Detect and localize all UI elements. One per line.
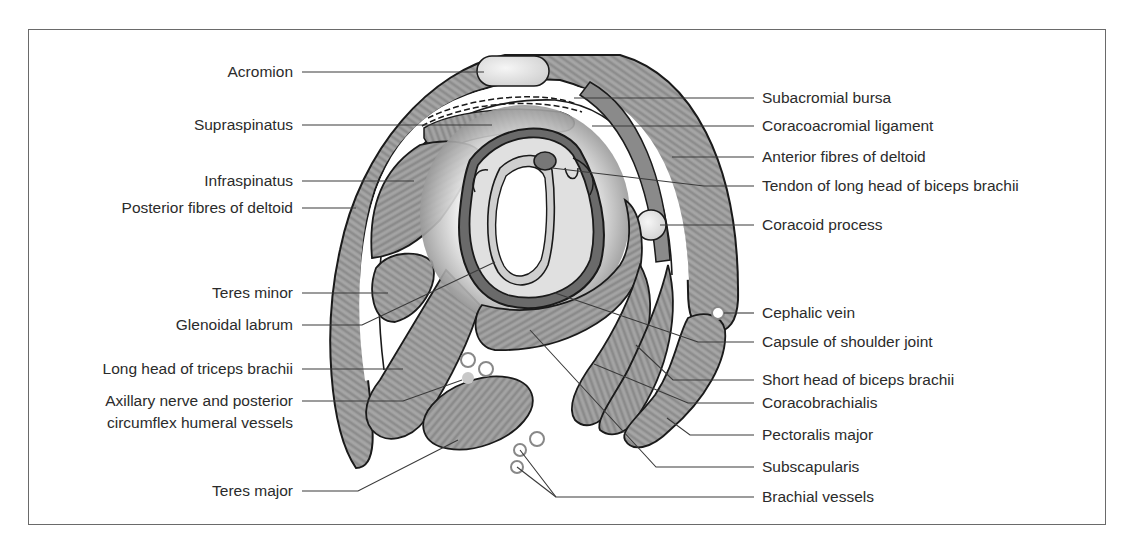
label-glenoidal-labrum: Glenoidal labrum <box>176 316 293 334</box>
label-supraspinatus: Supraspinatus <box>194 116 293 134</box>
biceps-tendon <box>534 152 556 170</box>
label-brachial-vessels: Brachial vessels <box>762 488 874 506</box>
label-coracobrachialis: Coracobrachialis <box>762 394 877 412</box>
label-subscapularis: Subscapularis <box>762 458 859 476</box>
label-anterior-deltoid: Anterior fibres of deltoid <box>762 148 926 166</box>
brachial-vessels-circles <box>511 432 544 473</box>
label-posterior-deltoid: Posterior fibres of deltoid <box>122 199 293 217</box>
label-coracoid-process: Coracoid process <box>762 216 883 234</box>
label-acromion: Acromion <box>228 63 293 81</box>
label-infraspinatus: Infraspinatus <box>204 172 293 190</box>
label-short-head-biceps: Short head of biceps brachii <box>762 371 954 389</box>
label-long-head-triceps: Long head of triceps brachii <box>103 360 293 378</box>
glenoidal-labrum-structure <box>488 155 555 284</box>
label-cephalic-vein: Cephalic vein <box>762 304 855 322</box>
label-capsule: Capsule of shoulder joint <box>762 333 933 351</box>
label-teres-major: Teres major <box>212 482 293 500</box>
label-teres-minor: Teres minor <box>212 284 293 302</box>
label-tendon-biceps: Tendon of long head of biceps brachii <box>762 177 1019 195</box>
label-pectoralis-major: Pectoralis major <box>762 426 873 444</box>
label-subacromial-bursa: Subacromial bursa <box>762 89 891 107</box>
label-axillary-nerve-line2: circumflex humeral vessels <box>107 414 293 432</box>
shoulder-cross-section-illustration <box>0 0 1131 545</box>
label-axillary-nerve: Axillary nerve and posterior <box>105 392 293 410</box>
label-coracoacromial-ligament: Coracoacromial ligament <box>762 117 933 135</box>
cephalic-vein-circle <box>712 307 724 319</box>
acromion-bone <box>477 56 549 86</box>
